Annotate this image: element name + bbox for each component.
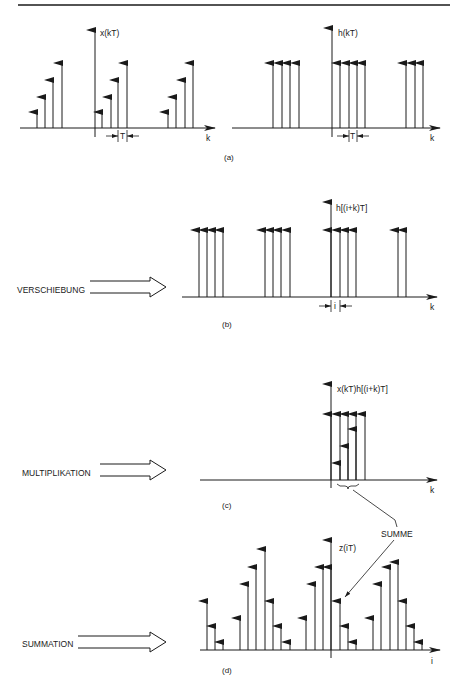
panel-b-shift <box>182 202 437 312</box>
ylabel-product: x(kT)h[(i+k)T] <box>337 384 388 394</box>
xlabel-k-c: k <box>430 485 435 495</box>
panel-a-left-xkt <box>20 30 215 142</box>
impulse-convolution-figure: x(kT) k T h(kT) k T (a) h[(i+k)T] k i (b… <box>0 0 461 684</box>
caption-c: (c) <box>222 501 232 510</box>
summation-arrow-icon <box>78 632 166 652</box>
summe-leader-to-brace <box>353 490 397 527</box>
caption-a: (a) <box>224 153 234 162</box>
spacing-label-T-right: T <box>350 131 355 141</box>
caption-b: (b) <box>222 320 232 329</box>
ylabel-h-shifted: h[(i+k)T] <box>336 203 367 213</box>
multiplikation-arrow-icon <box>100 460 166 480</box>
ylabel-xkt: x(kT) <box>100 28 120 38</box>
xlabel-i-d: i <box>431 656 433 666</box>
spacing-label-T-left: T <box>120 131 125 141</box>
panel-c-multiply <box>200 384 437 489</box>
side-label-verschiebung: VERSCHIEBUNG <box>17 285 85 295</box>
xlabel-k-b: k <box>430 302 435 312</box>
spacing-label-i: i <box>334 301 336 311</box>
xlabel-k-a-left: k <box>206 133 211 143</box>
ylabel-hkt: h(kT) <box>338 28 358 38</box>
panel-a-right-hkt <box>232 28 440 142</box>
ylabel-ziT: z(iT) <box>339 543 356 553</box>
verschiebung-arrow-icon <box>90 277 166 297</box>
panel-d-sum <box>200 540 440 658</box>
caption-d: (d) <box>222 666 232 675</box>
xlabel-k-a-right: k <box>430 133 435 143</box>
summation-brace <box>337 484 359 489</box>
side-label-summation: SUMMATION <box>22 639 73 649</box>
summe-label: SUMME <box>381 529 413 539</box>
side-label-multiplikation: MULTIPLIKATION <box>22 468 91 478</box>
